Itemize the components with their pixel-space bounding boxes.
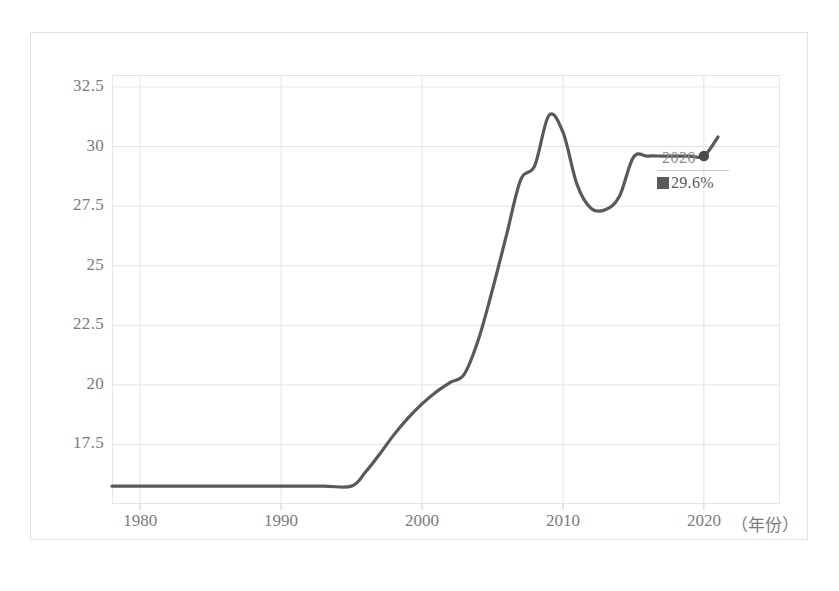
x-axis-tick-label: 2000 [405,511,439,531]
callout-value-label: 29.6% [671,173,714,193]
x-axis-title: （年份） [731,511,799,536]
x-axis-tick-label: 1990 [264,511,298,531]
x-axis-tick-labels: （年份） 19801990200020102020 [0,0,839,591]
x-axis-tick-label: 1980 [123,511,157,531]
callout-divider [657,170,729,171]
callout-value-row: 29.6% [657,173,741,193]
chart-page: 17.52022.52527.53032.5 （年份） 198019902000… [0,0,839,591]
x-axis-tick-label: 2010 [546,511,580,531]
data-point-callout: 2020 29.6% [657,148,741,193]
x-axis-tick-label: 2020 [687,511,721,531]
series-color-swatch [657,177,669,189]
callout-year-label: 2020 [657,148,741,168]
